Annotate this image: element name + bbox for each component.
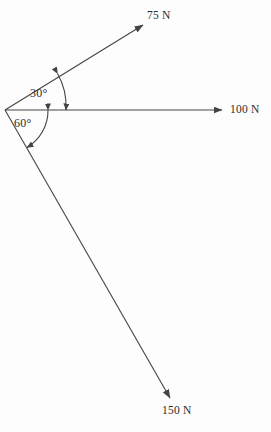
vector-label-100n: 100 N [230,103,259,116]
angle-label-60: 60° [14,117,31,130]
vector-canvas [0,0,271,432]
force-vector-diagram: 75 N 100 N 150 N 30° 60° [0,0,271,432]
angle-label-30: 30° [30,87,47,100]
vector-line-150n [5,110,170,398]
vector-label-150n: 150 N [162,404,191,417]
vector-label-75n: 75 N [147,9,170,22]
angle-arc-30 [58,74,67,111]
vector-line-75n [5,25,143,110]
